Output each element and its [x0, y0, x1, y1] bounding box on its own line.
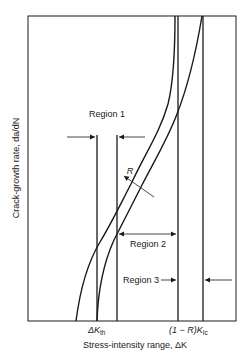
- x-axis-label: Stress-intensity range, ΔK: [83, 340, 187, 350]
- r-arrow-label: R: [127, 166, 134, 176]
- y-axis-label: Crack-growth rate, da/dN: [11, 118, 21, 219]
- region1-label: Region 1: [89, 109, 125, 119]
- kic-threshold-label: (1 − R)KIc: [169, 325, 209, 336]
- region2-label: Region 2: [130, 239, 166, 249]
- region3-label: Region 3: [123, 275, 159, 285]
- r-direction-arrow: [124, 176, 154, 197]
- crack-growth-diagram: Region 1 R Region 2 Region 3 ΔKth (1 − R…: [0, 0, 248, 357]
- dk-threshold-label: ΔKth: [87, 325, 106, 336]
